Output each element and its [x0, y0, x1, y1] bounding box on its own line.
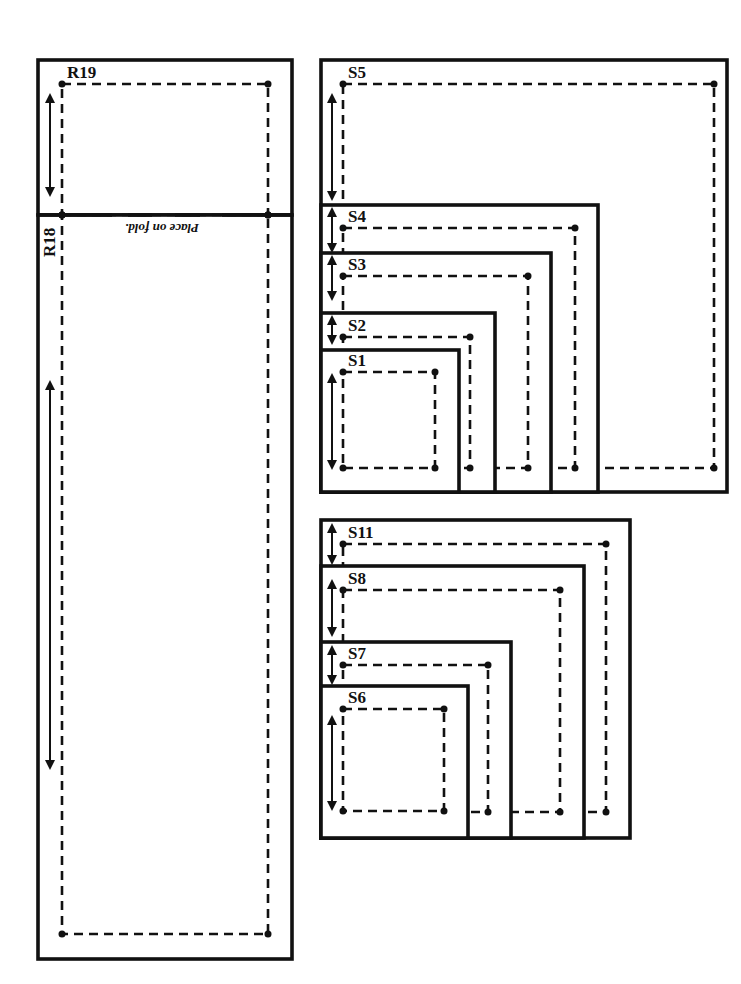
piece-r19: R19: [38, 60, 292, 219]
corner-dot: [525, 465, 532, 472]
corner-dot: [572, 225, 579, 232]
corner-dot: [340, 465, 347, 472]
pattern-sheet: R19R18S5S4S3S2S1S11S8S7S6Place on fold.: [0, 0, 741, 984]
corner-dot: [485, 809, 492, 816]
corner-dot: [711, 465, 718, 472]
piece-label: S3: [348, 255, 366, 274]
piece-label: S4: [348, 207, 366, 226]
corner-dot: [340, 587, 347, 594]
corner-dot: [340, 225, 347, 232]
corner-dot: [59, 81, 66, 88]
piece-label: S1: [348, 351, 366, 370]
corner-dot: [557, 809, 564, 816]
corner-dot: [340, 541, 347, 548]
corner-dot: [572, 465, 579, 472]
corner-dot: [525, 273, 532, 280]
corner-dot: [441, 706, 448, 713]
corner-dot: [340, 662, 347, 669]
corner-dot: [265, 81, 272, 88]
corner-dot: [340, 808, 347, 815]
piece-s1: S1: [321, 350, 459, 492]
corner-dot: [441, 808, 448, 815]
piece-label: S7: [348, 644, 366, 663]
corner-dot: [467, 465, 474, 472]
cut-line: [38, 60, 292, 215]
cut-line: [38, 215, 292, 959]
piece-s6: S6: [321, 686, 468, 838]
piece-r18: R18: [38, 212, 292, 960]
corner-dot: [340, 706, 347, 713]
corner-dot: [340, 334, 347, 341]
corner-dot: [340, 369, 347, 376]
piece-label: S8: [348, 569, 366, 588]
corner-dot: [340, 81, 347, 88]
corner-dot: [340, 273, 347, 280]
piece-label: S6: [348, 688, 366, 707]
pattern-pieces: R19R18S5S4S3S2S1S11S8S7S6Place on fold.: [38, 60, 727, 959]
fold-instruction: Place on fold.: [125, 221, 199, 236]
corner-dot: [59, 931, 66, 938]
corner-dot: [432, 465, 439, 472]
piece-label: S11: [348, 523, 374, 542]
corner-dot: [711, 81, 718, 88]
corner-dot: [432, 369, 439, 376]
corner-dot: [603, 541, 610, 548]
corner-dot: [557, 587, 564, 594]
corner-dot: [467, 334, 474, 341]
piece-label: R18: [40, 228, 59, 257]
piece-label: S2: [348, 316, 366, 335]
piece-label: R19: [67, 63, 96, 82]
corner-dot: [265, 931, 272, 938]
piece-label: S5: [348, 63, 366, 82]
corner-dot: [603, 809, 610, 816]
corner-dot: [485, 662, 492, 669]
